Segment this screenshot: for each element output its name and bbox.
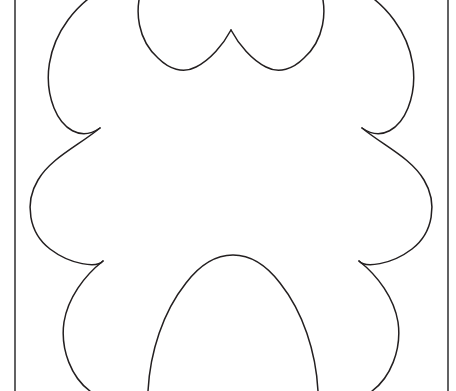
bear-outline-artboard	[0, 0, 456, 391]
canvas-background	[0, 0, 456, 391]
page-root: Bear Outline Template Symmetric teddy be…	[0, 0, 456, 391]
